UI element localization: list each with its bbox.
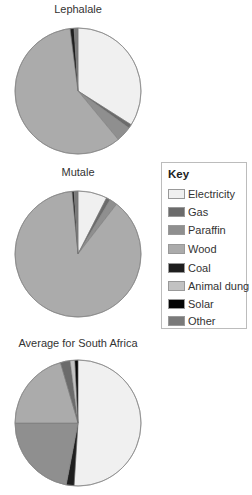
legend: Key Electricity Gas Paraffin Wood Coal A… <box>161 162 247 329</box>
swatch-other <box>168 316 185 326</box>
swatch-gas <box>168 207 185 217</box>
legend-item-electricity: Electricity <box>168 187 235 201</box>
pie-title-mutale: Mutale <box>0 166 156 178</box>
pie-chart-mutale <box>0 189 156 321</box>
legend-item-animal-dung: Animal dung <box>168 279 249 293</box>
legend-item-paraffin: Paraffin <box>168 223 226 237</box>
pie-title-lephalale: Lephalale <box>0 3 156 15</box>
swatch-paraffin <box>168 225 185 235</box>
swatch-animal-dung <box>168 281 185 291</box>
pie-title-south-africa: Average for South Africa <box>0 337 156 349</box>
legend-item-coal: Coal <box>168 261 211 275</box>
legend-item-solar: Solar <box>168 297 214 311</box>
swatch-solar <box>168 299 185 309</box>
legend-item-other: Other <box>168 314 216 328</box>
legend-item-gas: Gas <box>168 205 208 219</box>
swatch-electricity <box>168 189 185 199</box>
swatch-coal <box>168 263 185 273</box>
legend-title: Key <box>168 168 189 180</box>
swatch-wood <box>168 244 185 254</box>
pie-chart-lephalale <box>0 26 156 158</box>
pie-slice-electricity <box>74 360 141 486</box>
pie-chart-south-africa <box>0 358 156 490</box>
legend-item-wood: Wood <box>168 242 217 256</box>
